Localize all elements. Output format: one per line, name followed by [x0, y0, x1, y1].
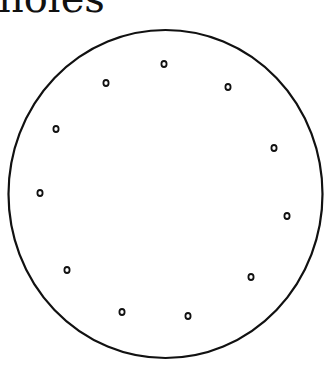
hole [103, 80, 108, 86]
hole [185, 313, 190, 319]
hole [119, 309, 124, 315]
disk-outline [9, 30, 323, 358]
hole [284, 213, 289, 219]
holes-group [37, 61, 289, 319]
hole [37, 190, 42, 196]
hole [248, 274, 253, 280]
hole [271, 145, 276, 151]
hole [64, 267, 69, 273]
hole [225, 84, 230, 90]
hole [161, 61, 166, 67]
disk-diagram [0, 0, 326, 369]
hole [53, 126, 58, 132]
